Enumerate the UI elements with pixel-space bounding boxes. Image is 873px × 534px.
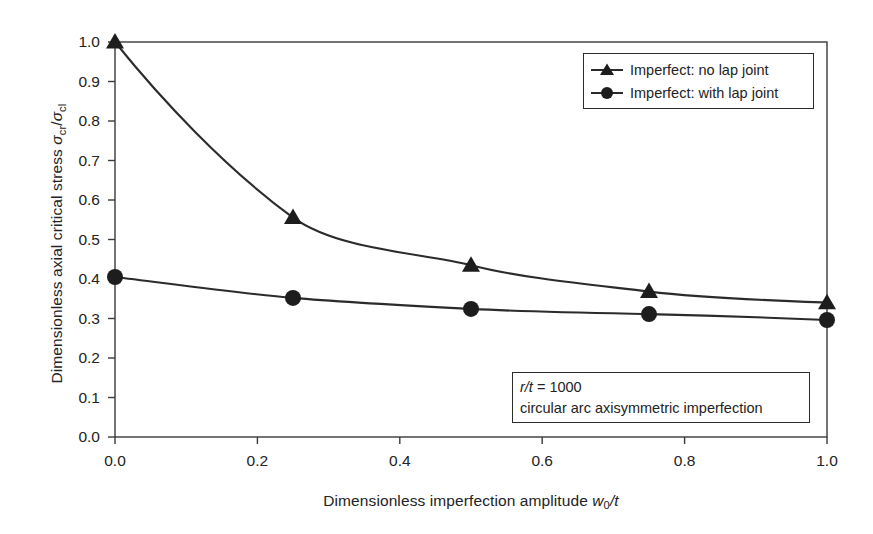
data-point-marker bbox=[641, 306, 657, 322]
legend: Imperfect: no lap joint Imperfect: with … bbox=[583, 53, 814, 109]
annotation-line-ratio: r/t = 1000 bbox=[520, 377, 802, 398]
triangle-marker-icon bbox=[590, 62, 624, 78]
sigma-cl-symbol: σ bbox=[48, 112, 65, 121]
ratio-slash: / bbox=[48, 121, 65, 125]
chart-figure: 1.0 0.9 0.8 0.7 0.6 0.5 0.4 0.3 0.2 0.1 … bbox=[0, 0, 873, 534]
y-axis-ticks bbox=[108, 42, 115, 437]
x-tick-label: 0.2 bbox=[234, 452, 280, 470]
annotation-line-imperfection: circular arc axisymmetric imperfection bbox=[520, 398, 802, 419]
data-point-marker bbox=[285, 290, 301, 306]
y-axis-title: Dimensionless axial critical stress σcr/… bbox=[48, 34, 67, 454]
x-axis-title: Dimensionless imperfection amplitude w0/… bbox=[115, 492, 827, 511]
x-axis-title-text: Dimensionless imperfection amplitude bbox=[323, 492, 592, 509]
r-over-t-value: = 1000 bbox=[533, 379, 582, 395]
x-tick-label: 0.4 bbox=[377, 452, 423, 470]
legend-entry-with-lap-joint: Imperfect: with lap joint bbox=[590, 81, 805, 104]
legend-entry-no-lap-joint: Imperfect: no lap joint bbox=[590, 58, 805, 81]
x-tick-label: 0.6 bbox=[519, 452, 565, 470]
data-point-marker bbox=[819, 312, 835, 328]
x-axis-ticks bbox=[115, 437, 827, 444]
slash-t: /t bbox=[610, 492, 619, 509]
sigma-cr-symbol: σ bbox=[48, 135, 65, 144]
data-point-marker bbox=[106, 33, 124, 49]
circle-marker-icon bbox=[590, 85, 624, 101]
w-symbol: w bbox=[592, 492, 603, 509]
legend-label: Imperfect: no lap joint bbox=[630, 62, 769, 78]
data-point-marker bbox=[107, 269, 123, 285]
y-axis-title-text: Dimensionless axial critical stress bbox=[48, 145, 65, 384]
data-point-marker bbox=[463, 301, 479, 317]
x-tick-label: 0.8 bbox=[662, 452, 708, 470]
legend-label: Imperfect: with lap joint bbox=[630, 85, 778, 101]
annotation-box: r/t = 1000 circular arc axisymmetric imp… bbox=[512, 372, 810, 423]
x-tick-label: 0.0 bbox=[92, 452, 138, 470]
r-over-t-symbol: r/t bbox=[520, 379, 533, 395]
x-tick-label: 1.0 bbox=[804, 452, 850, 470]
sigma-cl-subscript: cl bbox=[56, 104, 68, 112]
data-point-marker bbox=[284, 209, 302, 225]
sigma-cr-subscript: cr bbox=[56, 126, 68, 136]
